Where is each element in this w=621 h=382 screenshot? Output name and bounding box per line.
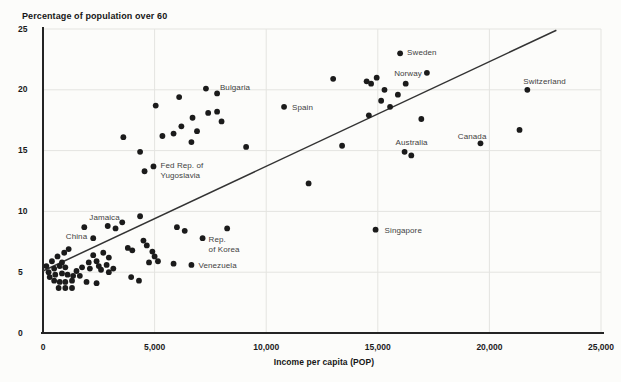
data-point [418, 116, 424, 122]
tick-label-y-5: 5 [18, 267, 23, 278]
data-point [110, 266, 116, 272]
data-point [57, 279, 63, 285]
data-point [100, 250, 106, 256]
data-point [155, 258, 161, 264]
data-point [403, 81, 409, 87]
data-point-switzerland [524, 87, 530, 93]
data-point [171, 261, 177, 267]
tick-label-y-0: 0 [18, 328, 23, 339]
data-point [79, 264, 85, 270]
data-point [224, 226, 230, 232]
data-point-spain [281, 104, 287, 110]
tick-label-y-25: 25 [18, 24, 27, 35]
data-point [106, 269, 112, 275]
tick-label-x-20000: 20,000 [476, 342, 502, 352]
country-label-rep-of-korea: Rep. of Korea [209, 235, 240, 254]
tick-label-x-15000: 15,000 [365, 342, 391, 352]
data-point-fed-rep-of-yugoslavia [151, 164, 157, 170]
country-label-spain: Spain [292, 103, 313, 113]
tick-label-x-5000: 5,000 [144, 342, 165, 352]
plot-canvas [0, 0, 621, 382]
data-point [137, 149, 143, 155]
data-point [86, 260, 92, 266]
data-point [160, 133, 166, 139]
data-point [408, 153, 414, 159]
data-point [46, 269, 52, 275]
data-point [74, 268, 80, 274]
data-point [517, 127, 523, 133]
data-point [144, 243, 150, 249]
data-point [171, 131, 177, 137]
data-point [62, 279, 68, 285]
data-point-rep-of-korea [200, 235, 206, 241]
country-label-australia: Australia [396, 138, 428, 148]
data-point [56, 285, 62, 291]
country-label-jamaica: Jamaica [89, 213, 120, 223]
data-point [119, 219, 125, 225]
data-point [178, 123, 184, 129]
data-point [339, 143, 345, 149]
data-point [395, 92, 401, 98]
data-point [90, 252, 96, 258]
data-point [152, 253, 158, 259]
data-point [105, 223, 111, 229]
data-point [70, 273, 76, 279]
data-point [113, 226, 119, 232]
data-point [174, 224, 180, 230]
data-point-china [90, 235, 96, 241]
data-point [136, 278, 142, 284]
data-point [194, 128, 200, 134]
data-point [55, 253, 61, 259]
data-point [62, 264, 68, 270]
data-point [374, 75, 380, 81]
country-label-sweden: Sweden [407, 48, 437, 58]
data-point [84, 279, 90, 285]
country-label-norway: Norway [394, 69, 422, 79]
data-point [306, 181, 312, 187]
data-point [190, 115, 196, 121]
data-point [49, 258, 55, 264]
data-point [62, 285, 68, 291]
data-point [51, 266, 57, 272]
data-point [87, 266, 93, 272]
data-point [104, 262, 110, 268]
data-point-sweden [397, 50, 403, 56]
tick-label-y-20: 20 [18, 84, 27, 95]
data-point [219, 119, 225, 125]
data-point [330, 76, 336, 82]
data-point [153, 103, 159, 109]
data-point [141, 238, 147, 244]
data-point-australia [402, 149, 408, 155]
data-point [69, 285, 75, 291]
data-point [98, 267, 104, 273]
data-point [243, 144, 249, 150]
country-label-china: China [66, 232, 87, 242]
data-point [47, 274, 53, 280]
data-point [214, 109, 220, 115]
data-point [378, 98, 384, 104]
data-point [69, 278, 75, 284]
data-point-venezuela [189, 262, 195, 268]
data-point-singapore [373, 227, 379, 233]
data-point [176, 94, 182, 100]
data-point [128, 274, 134, 280]
data-point [61, 250, 67, 256]
tick-label-y-10: 10 [18, 206, 27, 217]
data-point [189, 139, 195, 145]
data-point [51, 278, 57, 284]
data-point [66, 246, 72, 252]
data-point [205, 110, 211, 116]
tick-label-x-0: 0 [41, 342, 46, 352]
data-point [129, 247, 135, 253]
country-label-venezuela: Venezuela [198, 261, 236, 271]
data-point [59, 271, 65, 277]
tick-label-x-10000: 10,000 [253, 342, 279, 352]
data-point [368, 81, 374, 87]
data-point [52, 272, 58, 278]
data-point [94, 280, 100, 286]
data-point [182, 228, 188, 234]
data-point [65, 272, 71, 278]
data-point-jamaica [81, 224, 87, 230]
data-point [387, 104, 393, 110]
data-point [120, 134, 126, 140]
